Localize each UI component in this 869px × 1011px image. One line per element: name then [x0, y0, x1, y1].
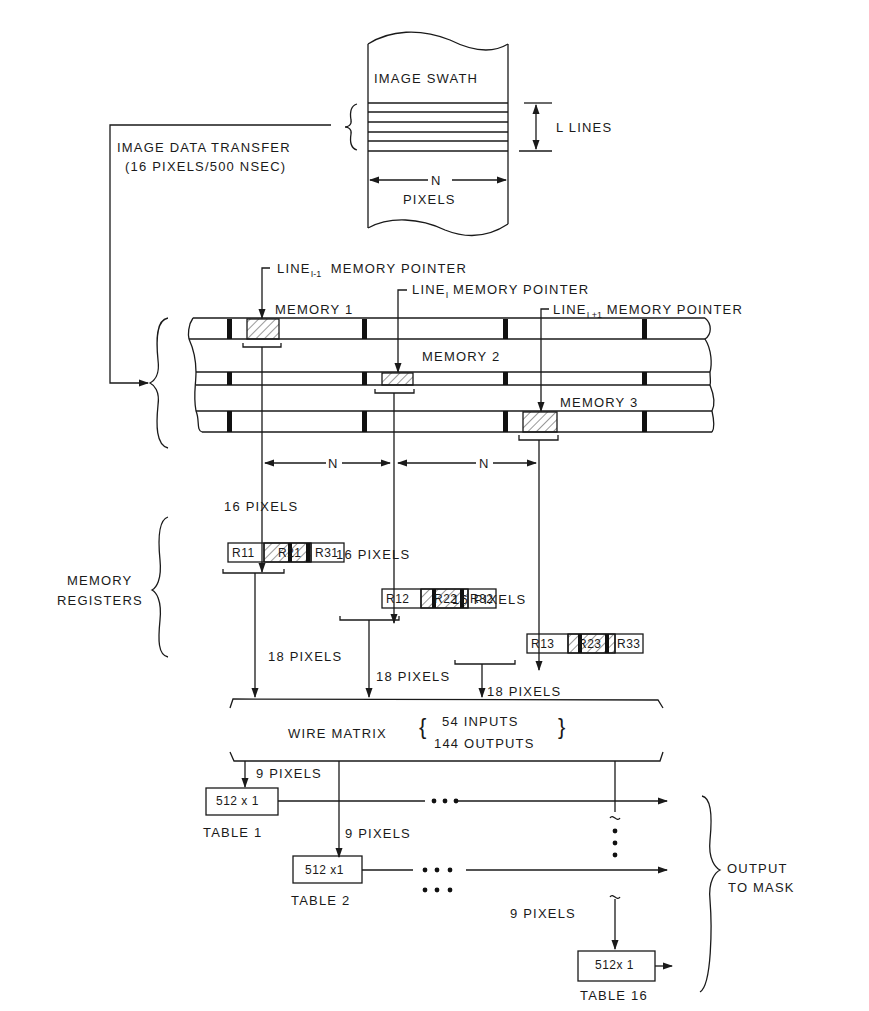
transfer-label: IMAGE DATA TRANSFER: [117, 141, 291, 154]
memory-brace: [150, 318, 168, 448]
register-r23: R23: [578, 638, 602, 650]
ellipsis-dots: [423, 799, 618, 893]
register-r33: R33: [617, 638, 641, 650]
output-brace: [700, 796, 720, 992]
register-output-2: 18 PIXELS: [376, 670, 450, 683]
table-1-size: 512 x 1: [216, 795, 259, 807]
memory-3-label: MEMORY 3: [560, 396, 638, 409]
memory-2-label: MEMORY 2: [422, 350, 500, 363]
pointer-line-i: LINEI MEMORY POINTER: [412, 283, 589, 296]
spacing-n-1: N: [328, 457, 339, 470]
register-r32: R32: [470, 593, 494, 605]
register-input-2: 16 PIXELS: [336, 548, 410, 561]
spacing-n-2: N: [479, 457, 490, 470]
wire-matrix-brace-left: {: [419, 716, 426, 738]
register-r31: R31: [315, 547, 339, 559]
register-r13: R13: [531, 638, 555, 650]
table-2-size: 512 x1: [305, 864, 344, 876]
pointer-line-i-plus-1: LINEI +1 MEMORY POINTER: [553, 303, 743, 316]
register-input-1: 16 PIXELS: [224, 500, 298, 513]
register-output-1: 18 PIXELS: [268, 650, 342, 663]
memory-1-label: MEMORY 1: [275, 303, 353, 316]
registers-label-line2: REGISTERS: [57, 594, 143, 607]
wire-matrix-inputs: 54 INPUTS: [442, 715, 519, 728]
table-1-name: TABLE 1: [203, 826, 262, 839]
registers-label-line1: MEMORY: [67, 574, 132, 587]
pointer-line-i-minus-1: LINEI-1 MEMORY POINTER: [277, 262, 467, 275]
wire-matrix-outputs: 144 OUTPUTS: [434, 737, 535, 750]
register-r21: R21: [278, 547, 302, 559]
l-lines-dimension: [519, 103, 552, 151]
output-label-line2: TO MASK: [728, 881, 795, 894]
wire-matrix-brace-right: }: [558, 716, 565, 738]
table-1-input: 9 PIXELS: [256, 767, 322, 780]
swath-width-label: N: [431, 174, 442, 187]
transfer-rate: (16 PIXELS/500 NSEC): [125, 160, 286, 173]
image-swath-title: IMAGE SWATH: [374, 72, 478, 85]
output-label-line1: OUTPUT: [727, 862, 788, 875]
table-2-name: TABLE 2: [291, 894, 350, 907]
table-2-input: 9 PIXELS: [345, 827, 411, 840]
register-output-3: 18 PIXELS: [487, 685, 561, 698]
register-r22: R22: [434, 593, 458, 605]
swath-width-unit: PIXELS: [403, 193, 456, 206]
wire-matrix-label: WIRE MATRIX: [288, 727, 387, 740]
table-16-name: TABLE 16: [580, 989, 648, 1002]
register-r11: R11: [232, 547, 255, 559]
table-16-input: 9 PIXELS: [510, 907, 576, 920]
swath-brace: [345, 104, 357, 150]
l-lines-label: L LINES: [556, 121, 612, 134]
registers-brace: [152, 517, 168, 657]
table-16-size: 512x 1: [595, 959, 634, 971]
register-r12: R12: [386, 593, 410, 605]
